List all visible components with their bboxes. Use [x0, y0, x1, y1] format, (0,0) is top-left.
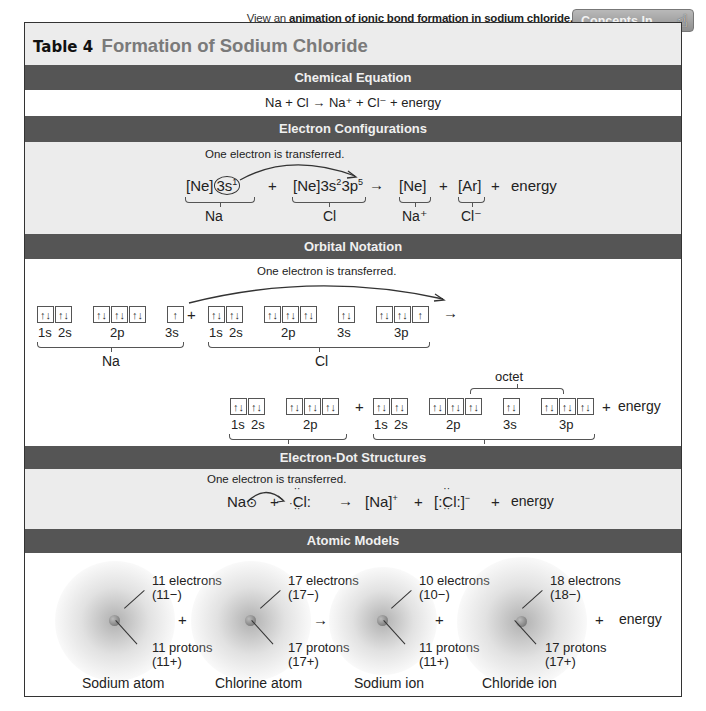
- na-ion-config: [Ne]: [399, 177, 427, 194]
- model-3-name: Chloride ion: [482, 675, 557, 691]
- dot-na-ion: [Na]+: [365, 493, 398, 510]
- cl-3s-label: 3s: [337, 325, 351, 340]
- plus-2: +: [439, 177, 448, 194]
- dot-cl-ion: [:··Cl··:]−: [434, 493, 470, 510]
- section-header-atomic-models: Atomic Models: [25, 529, 681, 553]
- model-2-proton-charge: (11+): [419, 654, 449, 669]
- na-ion-2s-label: 2s: [251, 417, 265, 432]
- section-header-orbital-notation: Orbital Notation: [25, 234, 681, 259]
- cl-ion-1s-label: 1s: [374, 417, 388, 432]
- cl-ion-2s-label: 2s: [394, 417, 408, 432]
- yields-arrow: →: [369, 176, 384, 193]
- cl-orbitals: ↑↓↑↓ ↑↓↑↓↑↓ ↑↓ ↑↓↑↓↑: [208, 305, 430, 323]
- model-3-electrons: 18 electrons: [550, 573, 621, 588]
- cl-ion-config: [Ar]: [458, 177, 481, 194]
- orbital-yields-arrow: →: [443, 304, 458, 321]
- model-1-name: Chlorine atom: [215, 675, 302, 691]
- orbital-transfer-note: One electron is transferred.: [257, 265, 396, 277]
- dot-plus-1: +: [270, 493, 279, 510]
- section-header-chemical-equation: Chemical Equation: [25, 65, 681, 90]
- cl-ion-2p-label: 2p: [446, 417, 460, 432]
- cl-ion-3s-label: 3s: [503, 417, 517, 432]
- orbital-plus-3: +: [602, 398, 611, 415]
- electron-configurations-row: One electron is transferred. [Ne]3s1 + […: [25, 142, 681, 234]
- label-na: Na: [205, 208, 223, 224]
- orbital-label-na: Na: [102, 353, 120, 369]
- brace-na-orbitals: [37, 342, 184, 348]
- model-3-protons: 17 protons: [545, 640, 606, 655]
- dot-cl: ···Cl··:: [289, 493, 311, 510]
- atomic-plus-1: +: [178, 611, 187, 628]
- brace-cl-orbitals: [208, 342, 430, 348]
- na-ion-2p-label: 2p: [303, 417, 317, 432]
- dot-na: Na⊙: [227, 493, 257, 510]
- na-2s-label: 2s: [58, 325, 72, 340]
- brace-na-ion: [399, 197, 431, 203]
- atomic-plus-2: +: [435, 611, 444, 628]
- cl-ion-3p-label: 3p: [559, 417, 573, 432]
- cl-2s-label: 2s: [229, 325, 243, 340]
- na-ion-orbitals: ↑↓↑↓ ↑↓↑↓↑↓: [230, 397, 340, 415]
- cl-ion-orbitals: ↑↓↑↓ ↑↓↑↓↑↓ ↑↓ ↑↓↑↓↑↓: [373, 397, 595, 415]
- brace-cl-ion-orbitals: [373, 434, 595, 440]
- cl-config: [Ne]3s23p5: [293, 177, 363, 194]
- energy-label: energy: [511, 177, 557, 194]
- table-number: Table 4: [33, 38, 93, 56]
- brace-na: [185, 197, 255, 203]
- dot-energy: energy: [511, 493, 554, 509]
- orbital-notation-row: One electron is transferred. ↑↓↑↓ ↑↓↑↓↑↓…: [25, 259, 681, 446]
- na-valence-electron-icon: ⊙: [246, 495, 257, 510]
- model-1-electron-charge: (17−): [288, 587, 319, 602]
- atomic-plus-3: +: [595, 611, 604, 628]
- na-orbitals: ↑↓↑↓ ↑↓↑↓↑↓ ↑: [37, 305, 185, 323]
- na-3s-label: 3s: [165, 325, 179, 340]
- na-2p-label: 2p: [110, 325, 124, 340]
- orbital-energy: energy: [618, 398, 661, 414]
- na-ion-1s-label: 1s: [231, 417, 245, 432]
- table-name: Formation of Sodium Chloride: [102, 35, 368, 56]
- model-0-electron-charge: (11−): [152, 587, 182, 602]
- electron-dot-row: One electron is transferred. Na⊙ + ···Cl…: [25, 469, 681, 529]
- brace-octet: [470, 388, 564, 394]
- cl-1s-label: 1s: [209, 325, 223, 340]
- brace-cl-ion: [458, 197, 485, 203]
- plus-1: +: [268, 177, 277, 194]
- atomic-yields-arrow: →: [313, 611, 328, 628]
- brace-cl: [292, 197, 366, 203]
- label-cl-ion: Cl⁻: [461, 208, 482, 224]
- atomic-energy: energy: [619, 611, 662, 627]
- brace-na-ion-orbitals: [229, 434, 347, 440]
- dot-plus-2: +: [414, 493, 423, 510]
- table-formation-of-sodium-chloride: Table 4 Formation of Sodium Chloride Che…: [24, 22, 682, 697]
- section-header-electron-configurations: Electron Configurations: [25, 116, 681, 142]
- model-2-electron-charge: (10−): [419, 587, 450, 602]
- section-header-electron-dot: Electron-Dot Structures: [25, 446, 681, 469]
- orbital-transfer-arrow-icon: [185, 277, 455, 307]
- dot-yields-arrow: →: [338, 492, 353, 509]
- atomic-models-row: 11 electrons (11−) 11 protons (11+) Sodi…: [25, 553, 681, 696]
- label-na-ion: Na⁺: [402, 208, 427, 224]
- dot-plus-3: +: [491, 493, 500, 510]
- table-title: Table 4 Formation of Sodium Chloride: [33, 35, 368, 57]
- octet-label: octet: [495, 369, 523, 384]
- model-1-proton-charge: (17+): [288, 654, 319, 669]
- model-2-name: Sodium ion: [354, 675, 424, 691]
- dot-transfer-note: One electron is transferred.: [207, 473, 346, 485]
- circled-3s: 3s1: [214, 176, 241, 195]
- chemical-equation: Na + Cl → Na⁺ + Cl⁻ + energy: [25, 95, 681, 110]
- orbital-plus-2: +: [355, 398, 364, 415]
- model-0-name: Sodium atom: [82, 675, 164, 691]
- cl-2p-label: 2p: [281, 325, 295, 340]
- model-3-electron-charge: (18−): [550, 587, 581, 602]
- orbital-plus-1: +: [187, 306, 196, 323]
- cl-3p-label: 3p: [394, 325, 408, 340]
- na-config: [Ne]3s1: [186, 176, 240, 195]
- model-0-proton-charge: (11+): [152, 654, 182, 669]
- chemical-equation-row: Na + Cl → Na⁺ + Cl⁻ + energy: [25, 90, 681, 116]
- plus-3: +: [491, 177, 500, 194]
- model-3-proton-charge: (17+): [545, 654, 576, 669]
- label-cl: Cl: [323, 208, 336, 224]
- na-1s-label: 1s: [38, 325, 52, 340]
- orbital-label-cl: Cl: [315, 353, 328, 369]
